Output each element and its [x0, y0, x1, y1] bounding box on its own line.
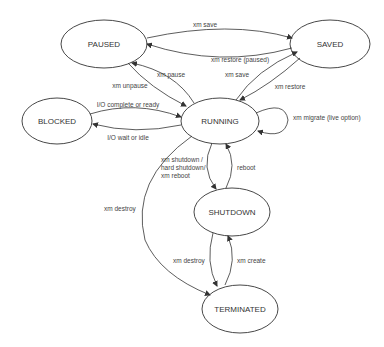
edge-running-shutdown — [207, 143, 216, 189]
edge-label-running-shutdown-2: hard shutdown/ — [161, 164, 206, 171]
edge-running-blocked — [93, 124, 181, 130]
node-terminated: TERMINATED — [202, 285, 278, 333]
diagram-svg: PAUSED SAVED BLOCKED RUNNING SHUTDOWN TE… — [0, 0, 384, 347]
edge-label-running-shutdown-3: xm reboot — [161, 172, 190, 179]
state-diagram: PAUSED SAVED BLOCKED RUNNING SHUTDOWN TE… — [0, 0, 384, 347]
edge-paused-saved — [147, 29, 292, 38]
node-shutdown: SHUTDOWN — [194, 188, 270, 236]
node-paused: PAUSED — [61, 20, 147, 68]
node-label-shutdown: SHUTDOWN — [208, 208, 255, 217]
node-label-paused: PAUSED — [88, 40, 121, 49]
edge-label-saved-paused: xm restore (paused) — [211, 56, 269, 64]
node-running: RUNNING — [181, 98, 259, 144]
edge-label-running-shutdown-1: xm shutdown / — [161, 156, 203, 163]
edge-label-running-saved: xm save — [225, 71, 250, 78]
edge-shutdown-terminated — [210, 233, 217, 286]
edge-blocked-running — [90, 108, 181, 117]
edge-label-blocked-running: I/O complete or ready — [97, 101, 160, 109]
edge-label-paused-saved: xm save — [193, 21, 218, 28]
edge-label-shutdown-terminated: xm destroy — [173, 257, 206, 265]
edge-label-running-blocked: I/O wait or idle — [107, 134, 149, 141]
node-label-saved: SAVED — [317, 40, 344, 49]
edge-terminated-shutdown — [225, 236, 232, 285]
node-label-blocked: BLOCKED — [38, 117, 76, 126]
edge-label-terminated-shutdown: xm create — [237, 257, 266, 264]
edge-label-running-terminated: xm destroy — [104, 205, 137, 213]
edge-label-running-paused: xm pause — [157, 71, 186, 79]
node-blocked: BLOCKED — [22, 98, 92, 144]
edge-label-shutdown-running: reboot — [237, 164, 256, 171]
node-label-running: RUNNING — [201, 117, 238, 126]
node-label-terminated: TERMINATED — [214, 305, 266, 314]
edge-saved-running — [240, 58, 300, 100]
edge-shutdown-running — [226, 144, 232, 188]
edge-running-self — [256, 108, 288, 134]
node-saved: SAVED — [290, 20, 370, 68]
edge-label-running-self: xm migrate (live option) — [293, 114, 361, 122]
edge-label-saved-running: xm restore — [275, 83, 306, 90]
edge-label-paused-running: xm unpause — [112, 82, 148, 90]
